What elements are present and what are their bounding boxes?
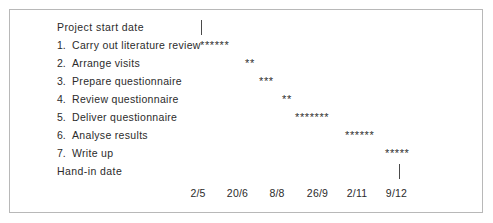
milestone-row-label: Hand-in date: [57, 162, 122, 180]
task-row: Hand-in date: [0, 162, 493, 180]
task-bar: **: [282, 90, 292, 108]
task-row-number: 5.: [57, 108, 66, 126]
axis-tick-label: 2/11: [347, 186, 368, 200]
task-row-number: 4.: [57, 90, 66, 108]
task-row: 1.Carry out literature review******: [0, 36, 493, 54]
task-bar: *****: [385, 144, 409, 162]
task-bar: ******: [200, 36, 229, 54]
task-row-label: Analyse results: [72, 126, 148, 144]
task-bar: ******: [345, 126, 374, 144]
axis-tick-label: 2/5: [190, 186, 205, 200]
axis-tick-label: 20/6: [227, 186, 248, 200]
date-axis: 2/520/68/826/92/119/12: [0, 186, 493, 202]
task-bar: ***: [259, 72, 274, 90]
task-row: 6.Analyse results******: [0, 126, 493, 144]
task-row-number: 6.: [57, 126, 66, 144]
milestone-tick-icon: [399, 164, 400, 179]
task-row-number: 3.: [57, 72, 66, 90]
task-row: 7.Write up*****: [0, 144, 493, 162]
milestone-tick-icon: [201, 20, 202, 35]
task-row: 3.Prepare questionnaire***: [0, 72, 493, 90]
axis-tick-label: 9/12: [386, 186, 407, 200]
task-row-label: Deliver questionnaire: [72, 108, 177, 126]
task-row-label: Carry out literature review: [72, 36, 201, 54]
milestone-row-label: Project start date: [57, 18, 144, 36]
task-row-number: 7.: [57, 144, 66, 162]
task-row-number: 1.: [57, 36, 66, 54]
task-row: 5.Deliver questionnaire*******: [0, 108, 493, 126]
gantt-chart-figure: Project start date1.Carry out literature…: [0, 0, 493, 223]
task-row: Project start date: [0, 18, 493, 36]
chart-plot-area: Project start date1.Carry out literature…: [0, 0, 493, 223]
task-bar: *******: [295, 108, 329, 126]
task-bar: **: [245, 54, 255, 72]
task-row-number: 2.: [57, 54, 66, 72]
axis-tick-label: 26/9: [307, 186, 328, 200]
task-row: 2.Arrange visits**: [0, 54, 493, 72]
task-row-label: Prepare questionnaire: [72, 72, 182, 90]
axis-tick-label: 8/8: [269, 186, 284, 200]
task-row-label: Arrange visits: [72, 54, 140, 72]
task-row-label: Review questionnaire: [72, 90, 179, 108]
task-row-label: Write up: [72, 144, 113, 162]
task-row: 4.Review questionnaire**: [0, 90, 493, 108]
